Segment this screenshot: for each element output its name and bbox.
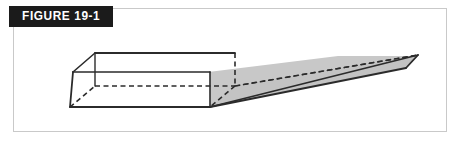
figure-banner-label: FIGURE 19-1 bbox=[22, 10, 100, 23]
block-top-face bbox=[73, 53, 235, 72]
figure-banner: FIGURE 19-1 bbox=[9, 6, 113, 27]
figure-screenshot: FIGURE 19-1 bbox=[0, 0, 462, 143]
